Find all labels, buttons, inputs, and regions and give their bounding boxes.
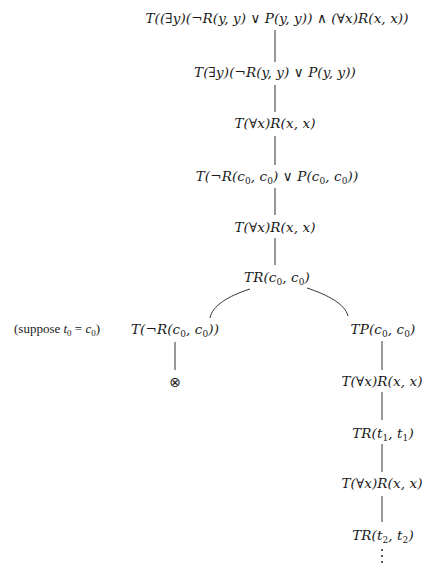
formula-r2: T(∀x)R(x, x) xyxy=(341,373,422,389)
tableau-node-r4: T(∀x)R(x, x) xyxy=(341,475,422,491)
tableau-node-n4: T(¬R(c0, c0) ∨ P(c0, c0)) xyxy=(196,168,359,184)
tableau-node-root: T((∃y)(¬R(y, y) ∨ P(y, y)) ∧ (∀x)R(x, x)… xyxy=(145,10,408,26)
tableau-diagram: T((∃y)(¬R(y, y) ∨ P(y, y)) ∧ (∀x)R(x, x)… xyxy=(0,0,432,576)
formula-left-branch: T(¬R(c0, c0)) xyxy=(131,321,219,337)
tableau-node-r2: T(∀x)R(x, x) xyxy=(341,373,422,389)
formula-n2: T(∃y)(¬R(y, y) ∨ P(y, y)) xyxy=(194,64,356,80)
formula-n4: T(¬R(c0, c0) ∨ P(c0, c0)) xyxy=(196,168,359,184)
formula-n3: T(∀x)R(x, x) xyxy=(234,115,315,131)
edge-n6-right xyxy=(307,288,348,316)
tableau-node-n6: TR(c0, c0) xyxy=(244,269,310,285)
formula-right-branch: TP(c0, c0) xyxy=(351,321,416,337)
tableau-node-right-branch: TP(c0, c0) xyxy=(351,321,416,337)
formula-root: T((∃y)(¬R(y, y) ∨ P(y, y)) ∧ (∀x)R(x, x)… xyxy=(145,10,408,26)
tableau-node-left-branch: T(¬R(c0, c0)) xyxy=(131,321,219,337)
formula-n5: T(∀x)R(x, x) xyxy=(234,219,315,235)
tableau-node-r5: TR(t2, t2) xyxy=(352,527,414,543)
edge-n6-left xyxy=(210,289,250,318)
formula-n6: TR(c0, c0) xyxy=(244,269,310,285)
tableau-node-n2: T(∃y)(¬R(y, y) ∨ P(y, y)) xyxy=(194,64,356,80)
branch-annotation: (suppose t0 = c0) xyxy=(14,321,100,337)
closed-branch-icon: ⊗ xyxy=(169,375,181,389)
formula-r3: TR(t1, t1) xyxy=(352,425,414,441)
continuation-vertical-dots-icon xyxy=(380,549,384,567)
tableau-node-n3: T(∀x)R(x, x) xyxy=(234,115,315,131)
tableau-node-n5: T(∀x)R(x, x) xyxy=(234,219,315,235)
formula-r5: TR(t2, t2) xyxy=(352,527,414,543)
formula-r4: T(∀x)R(x, x) xyxy=(341,475,422,491)
tableau-node-r3: TR(t1, t1) xyxy=(352,425,414,441)
